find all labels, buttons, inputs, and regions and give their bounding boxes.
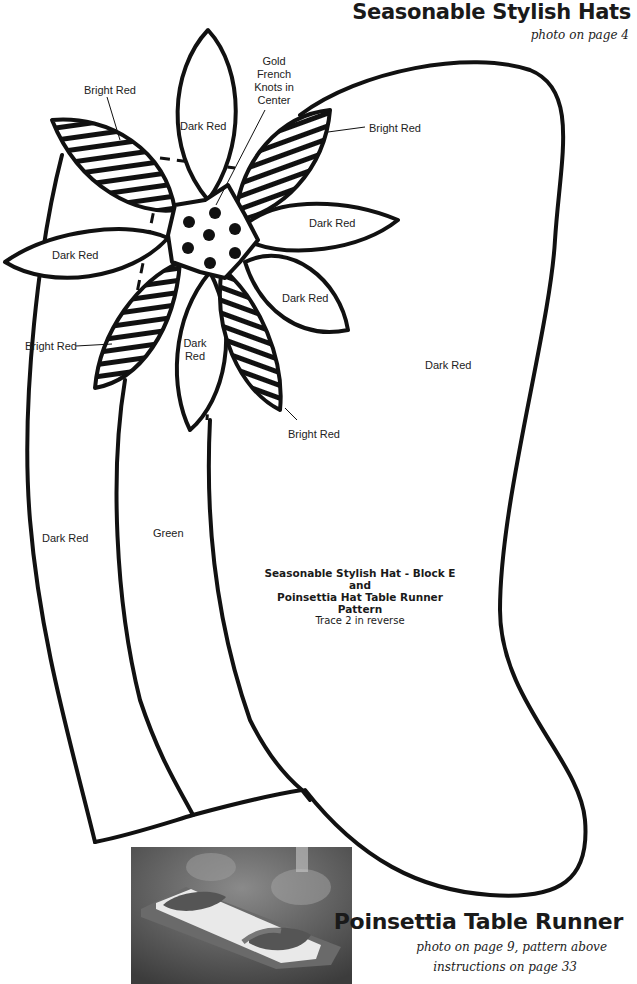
label-brim-band: Green [153, 527, 184, 539]
label-line: Gold [249, 55, 299, 68]
brim-divider-1 [117, 380, 193, 815]
footer-title: Poinsettia Table Runner [334, 909, 623, 934]
label-bright-red-bottom: Bright Red [288, 428, 340, 440]
label-hat-crown: Dark Red [425, 359, 471, 371]
label-line: Red [180, 350, 210, 363]
caption-note: Trace 2 in reverse [240, 615, 480, 627]
pattern-caption: Seasonable Stylish Hat - Block E and Poi… [240, 567, 480, 627]
label-line: Dark [180, 337, 210, 350]
label-brim-left: Dark Red [42, 532, 88, 544]
caption-line-2: and [240, 579, 480, 591]
french-knot-dot [204, 257, 216, 269]
label-petal-left: Dark Red [52, 249, 98, 261]
label-line: French [249, 68, 299, 81]
footer-subtitle-line-2: instructions on page 33 [433, 960, 577, 974]
brim-bottom-edge [95, 790, 310, 842]
label-bright-red-left: Bright Red [25, 340, 77, 352]
label-bright-red-top-right: Bright Red [369, 122, 421, 134]
label-petal-lower-right: Dark Red [282, 292, 328, 304]
label-petal-right: Dark Red [309, 217, 355, 229]
petal-top [178, 30, 236, 200]
label-gold-french-knots: Gold French Knots in Center [249, 55, 299, 107]
french-knot-dot [203, 229, 215, 241]
french-knot-dot [182, 242, 194, 254]
label-petal-top: Dark Red [180, 120, 226, 132]
french-knot-dot [229, 223, 241, 235]
petal-upper-left-striped [52, 120, 175, 211]
caption-line-1: Seasonable Stylish Hat - Block E [240, 567, 480, 579]
caption-line-4: Pattern [240, 603, 480, 615]
leader-bright-red-bottom [285, 408, 297, 420]
hat-crown-outline [300, 62, 586, 895]
caption-line-3: Poinsettia Hat Table Runner [240, 591, 480, 603]
table-runner-photo [131, 847, 352, 984]
leader-bright-red-top-right [328, 127, 365, 132]
hat-pattern-drawing [0, 0, 637, 984]
label-line: Center [249, 94, 299, 107]
footer-subtitle-line-1: photo on page 9, pattern above [416, 940, 607, 954]
label-bright-red-top-left: Bright Red [84, 84, 136, 96]
french-knot-dot [229, 247, 241, 259]
label-petal-bottom: Dark Red [180, 337, 210, 363]
petal-lower-left-striped [95, 262, 180, 388]
photo-illustration [131, 847, 352, 984]
french-knot-dot [209, 207, 221, 219]
label-line: Knots in [249, 81, 299, 94]
french-knot-dot [183, 216, 195, 228]
